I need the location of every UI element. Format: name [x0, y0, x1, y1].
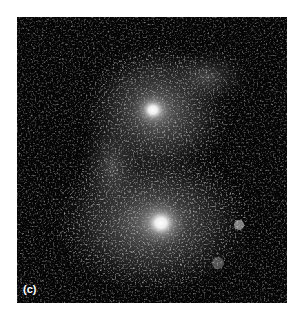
- galaxy-image: (c): [17, 17, 287, 303]
- galaxy-rendering: [17, 17, 287, 303]
- panel-label: (c): [23, 283, 36, 295]
